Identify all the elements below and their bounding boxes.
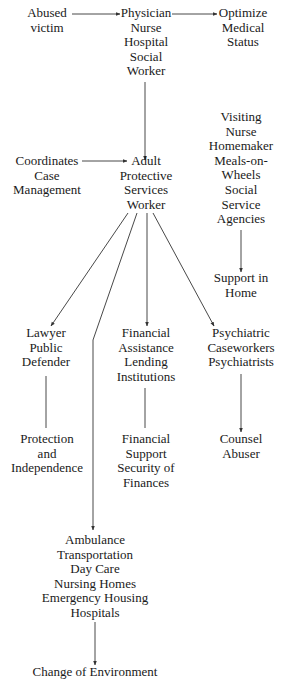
node-line: Service xyxy=(208,198,274,213)
node-line: Security of xyxy=(113,461,179,476)
node-line: Services xyxy=(118,183,174,198)
node-counsel: Counsel Abuser xyxy=(212,432,270,461)
node-line: Defender xyxy=(20,355,72,370)
node-line: Finances xyxy=(113,476,179,491)
node-line: Visiting xyxy=(208,110,274,125)
node-line: Support in xyxy=(210,271,272,286)
node-line: Meals-on- xyxy=(208,154,274,169)
node-financial-support: Financial Support Security of Finances xyxy=(113,432,179,490)
node-line: Protection xyxy=(8,432,86,447)
node-line: Support xyxy=(113,447,179,462)
node-line: Lending xyxy=(113,355,179,370)
node-line: Psychiatrists xyxy=(204,355,278,370)
node-line: Ambulance xyxy=(40,533,150,548)
node-line: Worker xyxy=(118,64,174,79)
node-lawyer: Lawyer Public Defender xyxy=(20,326,72,370)
node-line: Financial xyxy=(113,326,179,341)
node-line: Coordinates xyxy=(12,154,82,169)
node-psychiatric: Psychiatric Caseworkers Psychiatrists xyxy=(204,326,278,370)
node-line: victim xyxy=(22,21,72,36)
node-optimize: Optimize Medical Status xyxy=(216,6,270,50)
node-line: Worker xyxy=(118,198,174,213)
node-line: Social xyxy=(118,50,174,65)
node-line: Hospitals xyxy=(40,606,150,621)
node-line: Caseworkers xyxy=(204,341,278,356)
node-line: Public xyxy=(20,341,72,356)
node-line: Hospital xyxy=(118,35,174,50)
node-line: and xyxy=(8,447,86,462)
edge-aps-to-psychiatric xyxy=(153,213,214,326)
node-line: Abuser xyxy=(212,447,270,462)
node-line: Emergency Housing xyxy=(40,591,150,606)
node-line: Physician xyxy=(118,6,174,21)
node-protection: Protection and Independence xyxy=(8,432,86,476)
node-line: Counsel xyxy=(212,432,270,447)
node-abused-victim: Abused victim xyxy=(22,6,72,35)
node-line: Lawyer xyxy=(20,326,72,341)
node-line: Transportation xyxy=(40,548,150,563)
node-line: Social xyxy=(208,183,274,198)
node-line: Adult xyxy=(118,154,174,169)
node-line: Nursing Homes xyxy=(40,577,150,592)
node-line: Wheels xyxy=(208,168,274,183)
node-aps-worker: Adult Protective Services Worker xyxy=(118,154,174,212)
node-line: Nurse xyxy=(208,125,274,140)
node-physician: Physician Nurse Hospital Social Worker xyxy=(118,6,174,79)
node-line: Financial xyxy=(113,432,179,447)
node-financial-assistance: Financial Assistance Lending Institution… xyxy=(113,326,179,384)
node-line: Psychiatric xyxy=(204,326,278,341)
node-line: Management xyxy=(12,183,82,198)
node-line: Case xyxy=(12,169,82,184)
node-line: Assistance xyxy=(113,341,179,356)
node-line: Status xyxy=(216,35,270,50)
node-line: Homemaker xyxy=(208,139,274,154)
node-line: Protective xyxy=(118,169,174,184)
node-line: Optimize xyxy=(216,6,270,21)
node-line: Agencies xyxy=(208,212,274,227)
node-visiting: Visiting Nurse Homemaker Meals-on- Wheel… xyxy=(208,110,274,227)
node-line: Abused xyxy=(22,6,72,21)
edge-aps-to-lawyer xyxy=(51,213,128,326)
node-change-environment: Change of Environment xyxy=(30,665,160,680)
node-line: Day Care xyxy=(40,562,150,577)
node-support-home: Support in Home xyxy=(210,271,272,300)
node-line: Independence xyxy=(8,461,86,476)
node-coordinates: Coordinates Case Management xyxy=(12,154,82,198)
node-line: Medical xyxy=(216,21,270,36)
node-line: Home xyxy=(210,286,272,301)
node-line: Change of Environment xyxy=(30,665,160,680)
node-line: Institutions xyxy=(113,370,179,385)
node-ambulance: Ambulance Transportation Day Care Nursin… xyxy=(40,533,150,621)
node-line: Nurse xyxy=(118,21,174,36)
